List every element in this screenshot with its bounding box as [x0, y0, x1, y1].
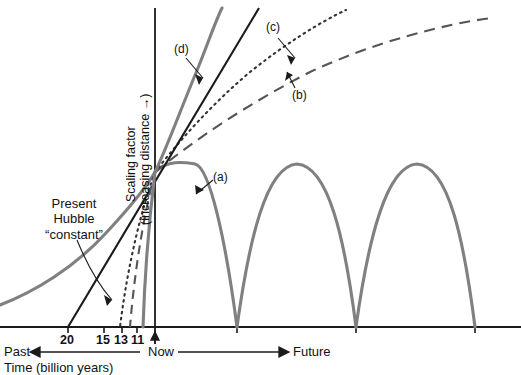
- hubble-leader-line: [77, 240, 112, 300]
- tick-label-15: 15: [96, 333, 110, 348]
- curve-c-coasting: [155, 10, 346, 172]
- curve-label-d: (d): [174, 42, 189, 56]
- hubble-line-3: “constant”: [26, 227, 122, 242]
- future-label: Future: [293, 344, 331, 359]
- hubble-annotation: Present Hubble “constant”: [26, 196, 122, 242]
- curve-b-decelerating: [155, 18, 492, 172]
- curve-a-oscillating: [155, 162, 475, 327]
- annotation-leaders: [77, 38, 295, 300]
- tick-label-13: 13: [114, 333, 128, 348]
- x-axis-label: Time (billion years): [4, 360, 113, 375]
- y-axis-label-line1: Scaling factor: [124, 126, 138, 202]
- hubble-line-1: Present: [26, 196, 122, 211]
- curve-label-c: (c): [266, 20, 280, 34]
- now-label: Now: [144, 344, 178, 359]
- past-label: Past: [4, 344, 30, 359]
- tick-label-11: 11: [131, 333, 144, 348]
- hubble-line-2: Hubble: [26, 211, 122, 226]
- tick-label-20: 20: [60, 333, 74, 348]
- past-direction-arrow: [30, 347, 140, 357]
- y-axis-label-line2: (increasing distance →): [138, 94, 152, 225]
- leader-arrow-c: [278, 38, 295, 58]
- future-direction-arrow: [178, 347, 289, 357]
- curve-label-b: (b): [292, 88, 307, 102]
- curve-label-a: (a): [213, 170, 228, 184]
- curve-d-accelerating: [0, 8, 222, 305]
- cosmology-scaling-factor-figure: [0, 0, 521, 375]
